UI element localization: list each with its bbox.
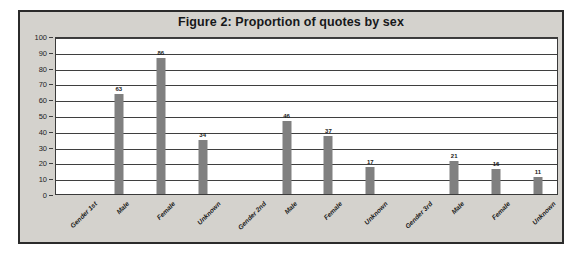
bar-slot — [391, 38, 433, 194]
x-tick-label: Unknown — [363, 200, 389, 226]
x-tick-label: Male — [115, 200, 130, 215]
x-axis: Gender 1stMaleFemaleUnknownGender 2ndMal… — [55, 197, 558, 243]
x-tick-label: Male — [450, 200, 465, 215]
chart-frame: Figure 2: Proportion of quotes by sex 01… — [18, 10, 564, 244]
x-tick-slot: Gender 1st — [55, 197, 97, 243]
x-tick-label: Unknown — [531, 200, 557, 226]
y-tick-mark — [49, 148, 53, 149]
y-tick-label: 40 — [39, 127, 47, 136]
y-tick-mark — [49, 84, 53, 85]
bar-slot: 21 — [433, 38, 475, 194]
x-tick-slot: Female — [474, 197, 516, 243]
y-tick-mark — [49, 69, 53, 70]
x-tick-slot: Male — [432, 197, 474, 243]
bar-slot: 37 — [308, 38, 350, 194]
bar-value-label: 21 — [451, 152, 458, 160]
bar-value-label: 86 — [157, 49, 164, 57]
bar-slot: 86 — [140, 38, 182, 194]
bar-value-label: 17 — [367, 158, 374, 166]
x-tick-label: Gender 3rd — [404, 200, 434, 230]
y-tick-label: 90 — [39, 48, 47, 57]
bar[interactable] — [450, 161, 459, 194]
bar[interactable] — [534, 177, 543, 194]
y-tick-mark — [49, 53, 53, 54]
y-tick-label: 30 — [39, 143, 47, 152]
bar[interactable] — [492, 169, 501, 194]
bar-slot: 46 — [266, 38, 308, 194]
y-tick-label: 70 — [39, 80, 47, 89]
y-tick-label: 20 — [39, 159, 47, 168]
bar-slot: 16 — [475, 38, 517, 194]
y-tick-label: 10 — [39, 175, 47, 184]
x-tick-slot: Female — [139, 197, 181, 243]
bar[interactable] — [366, 167, 375, 194]
x-tick-slot: Male — [97, 197, 139, 243]
bar-series: 638634463717211611 — [56, 38, 557, 194]
chart-title: Figure 2: Proportion of quotes by sex — [20, 15, 562, 29]
y-tick-mark — [49, 37, 53, 38]
bar[interactable] — [198, 140, 207, 194]
y-tick-mark — [49, 100, 53, 101]
y-tick-label: 80 — [39, 64, 47, 73]
y-tick-label: 50 — [39, 112, 47, 121]
bar-value-label: 46 — [283, 112, 290, 120]
bar-slot: 63 — [98, 38, 140, 194]
x-tick-slot: Unknown — [181, 197, 223, 243]
bar-slot: 17 — [349, 38, 391, 194]
bar-slot: 11 — [517, 38, 558, 194]
bar-slot: 34 — [182, 38, 224, 194]
x-tick-label: Unknown — [196, 200, 222, 226]
bar-value-label: 37 — [325, 127, 332, 135]
bar[interactable] — [114, 94, 123, 194]
x-tick-label: Gender 2nd — [236, 200, 267, 231]
bar-value-label: 16 — [493, 160, 500, 168]
plot-wrap: 638634463717211611 — [55, 37, 558, 195]
plot-area: 638634463717211611 — [55, 37, 558, 195]
x-tick-slot: Unknown — [348, 197, 390, 243]
bar[interactable] — [282, 121, 291, 194]
x-tick-slot: Unknown — [516, 197, 558, 243]
y-tick-mark — [49, 163, 53, 164]
y-tick-label: 60 — [39, 96, 47, 105]
x-tick-slot: Male — [265, 197, 307, 243]
bar[interactable] — [324, 136, 333, 194]
bar-value-label: 11 — [535, 168, 541, 176]
bar-value-label: 34 — [199, 131, 206, 139]
bar-value-label: 63 — [116, 85, 123, 93]
bar-slot — [56, 38, 98, 194]
x-tick-label: Female — [490, 200, 511, 221]
y-axis: 0102030405060708090100 — [20, 37, 53, 195]
y-tick-mark — [49, 116, 53, 117]
x-tick-label: Gender 1st — [69, 200, 98, 229]
x-tick-label: Female — [323, 200, 344, 221]
x-tick-slot: Gender 2nd — [223, 197, 265, 243]
y-tick-mark — [49, 179, 53, 180]
y-tick-label: 0 — [43, 191, 47, 200]
y-tick-mark — [49, 132, 53, 133]
x-tick-slot: Gender 3rd — [390, 197, 432, 243]
x-tick-label: Female — [155, 200, 176, 221]
bar-slot — [224, 38, 266, 194]
y-tick-mark — [49, 195, 53, 196]
bar[interactable] — [156, 58, 165, 194]
x-tick-slot: Female — [307, 197, 349, 243]
x-tick-label: Male — [282, 200, 297, 215]
y-tick-label: 100 — [34, 33, 47, 42]
